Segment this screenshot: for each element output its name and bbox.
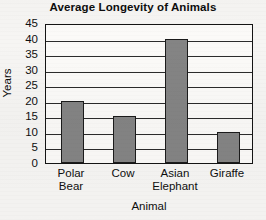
y-tick-label-20: 20 <box>25 96 38 108</box>
y-tick-label-0: 0 <box>32 158 38 170</box>
y-tick-label-25: 25 <box>25 80 38 92</box>
plot-area <box>45 24 253 164</box>
x-axis-category-labels: PolarBearCowAsianElephantGiraffe <box>45 167 253 201</box>
y-tick-label-45: 45 <box>25 18 38 30</box>
y-tick-label-15: 15 <box>25 112 38 124</box>
gridline-25 <box>46 87 252 88</box>
y-tick-label-30: 30 <box>25 65 38 77</box>
x-category-label-polar-bear: PolarBear <box>45 167 97 193</box>
x-category-label-cow: Cow <box>97 167 149 180</box>
bar-cow[interactable] <box>113 116 136 163</box>
y-tick-label-10: 10 <box>25 127 38 139</box>
y-axis-tick-labels: 454035302520151050 <box>0 24 41 164</box>
bar-chart: Average Longevity of Animals Years 45403… <box>0 0 266 220</box>
gridline-40 <box>46 41 252 42</box>
x-category-label-giraffe: Giraffe <box>201 167 253 180</box>
gridline-30 <box>46 72 252 73</box>
bar-asian-elephant[interactable] <box>165 39 188 163</box>
y-tick-label-5: 5 <box>32 143 38 155</box>
bar-polar-bear[interactable] <box>61 101 84 163</box>
x-axis-title: Animal <box>45 200 253 212</box>
bar-giraffe[interactable] <box>217 132 240 163</box>
y-tick-label-35: 35 <box>25 49 38 61</box>
gridline-35 <box>46 56 252 57</box>
chart-title: Average Longevity of Animals <box>0 1 266 13</box>
x-category-label-asian-elephant: AsianElephant <box>149 167 201 193</box>
y-tick-label-40: 40 <box>25 34 38 46</box>
